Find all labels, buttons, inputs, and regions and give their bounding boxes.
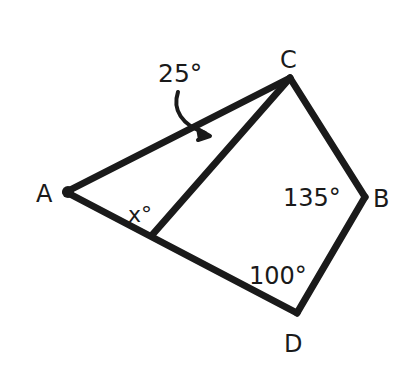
angle-label-x: x° <box>128 202 152 227</box>
side-cb <box>290 78 365 197</box>
vertex-label-d: D <box>284 330 302 358</box>
segment-c-to-ad <box>153 78 290 234</box>
side-bd <box>297 197 365 313</box>
geometry-diagram: C A B D 25° x° 135° 100° <box>0 0 420 390</box>
side-da <box>66 192 297 313</box>
vertex-label-b: B <box>373 185 389 213</box>
vertex-label-a: A <box>36 180 53 208</box>
vertex-a-dot <box>62 186 74 198</box>
angle-label-25: 25° <box>158 59 202 88</box>
vertex-label-c: C <box>280 46 297 74</box>
angle-label-135: 135° <box>283 184 341 212</box>
angle-label-100: 100° <box>249 262 307 290</box>
